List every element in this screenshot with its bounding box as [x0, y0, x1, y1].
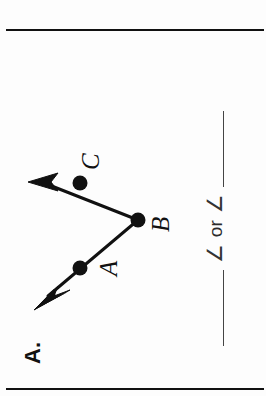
point-dot-a [73, 261, 88, 276]
worksheet-page: A. A B C [0, 0, 266, 396]
point-dot-c [73, 176, 88, 191]
point-label-b: B [148, 217, 173, 232]
ray-bc-line [44, 183, 138, 220]
angle-diagram-svg [18, 28, 178, 368]
or-connector-text: or [206, 220, 225, 237]
point-label-c: C [78, 153, 103, 170]
angle-symbol-icon-2: ∠ [205, 194, 226, 213]
answer-row: ∠ or ∠ [194, 34, 234, 346]
point-dot-b [131, 213, 146, 228]
rotated-worksheet-content: A. A B C [18, 28, 248, 368]
ray-bc-arrowhead [28, 173, 58, 191]
angle-symbol-icon-1: ∠ [205, 244, 226, 263]
answer-blank-1[interactable] [223, 270, 224, 346]
angle-diagram: A B C [18, 28, 178, 368]
ray-ba-arrowhead-fill [34, 286, 70, 310]
ray-ba-line [48, 220, 138, 296]
page-rule-bottom [6, 388, 264, 390]
answer-blank-2[interactable] [223, 111, 224, 187]
point-label-a: A [96, 261, 121, 276]
